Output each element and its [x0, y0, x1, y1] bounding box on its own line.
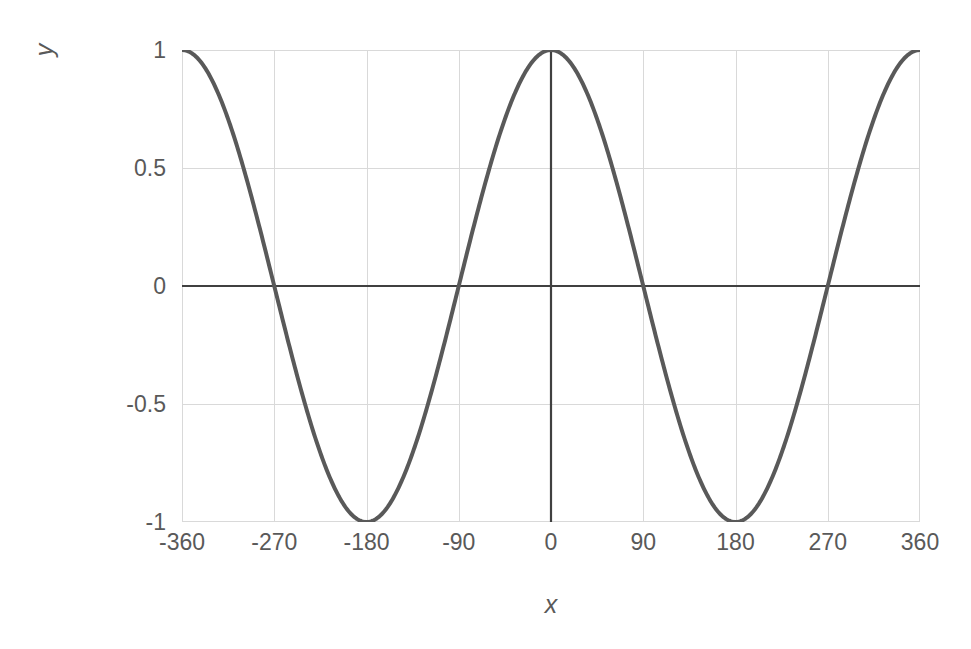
- y-axis-title: y: [24, 0, 64, 286]
- x-axis-tick-labels: -360-270-180-90090180270360: [182, 531, 920, 563]
- y-tick-label: 0.5: [96, 157, 166, 180]
- y-tick-label: 0: [96, 275, 166, 298]
- y-tick-label: -0.5: [96, 393, 166, 416]
- plot-svg: [182, 50, 920, 522]
- x-tick-label: 360: [865, 531, 971, 554]
- y-axis-tick-labels: 10.50-0.5-1: [94, 50, 166, 522]
- x-axis-title: x: [182, 592, 920, 617]
- y-tick-label: 1: [96, 39, 166, 62]
- plot-area: [182, 50, 920, 522]
- chart-container: 10.50-0.5-1 -360-270-180-90090180270360 …: [0, 0, 971, 649]
